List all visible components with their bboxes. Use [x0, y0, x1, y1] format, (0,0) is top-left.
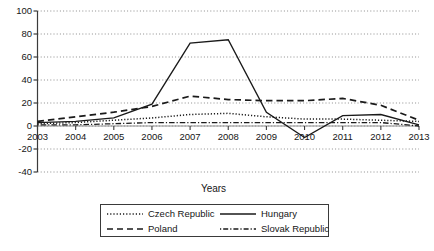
- x-tick-label: 2011: [323, 132, 363, 142]
- legend-swatch-solid-icon: [219, 208, 257, 220]
- y-tick-label: 20: [0, 98, 32, 108]
- x-tick-label: 2009: [246, 132, 286, 142]
- legend-item-slovak-republic: Slovak Republic: [219, 221, 329, 236]
- y-tick-label: -20: [0, 144, 32, 154]
- legend-label: Czech Republic: [148, 208, 215, 219]
- x-tick-label: 2006: [132, 132, 172, 142]
- x-tick-label: 2013: [399, 132, 434, 142]
- legend-item-czech-republic: Czech Republic: [106, 206, 218, 221]
- x-tick-label: 2004: [56, 132, 96, 142]
- legend-swatch-dash-dot-icon: [219, 223, 257, 235]
- legend-swatch-dashed-icon: [106, 223, 144, 235]
- series-line-poland: [38, 96, 420, 121]
- y-tick-label: -40: [0, 167, 32, 177]
- x-tick-label: 2010: [285, 132, 325, 142]
- legend-swatch-dotted-icon: [106, 208, 144, 220]
- y-tick-label: 60: [0, 52, 32, 62]
- x-tick-label: 2007: [170, 132, 210, 142]
- legend-label: Hungary: [261, 208, 297, 219]
- legend-label: Poland: [148, 223, 178, 234]
- x-tick-label: 2008: [208, 132, 248, 142]
- legend-item-poland: Poland: [106, 221, 218, 236]
- y-tick-label: 0: [0, 121, 32, 131]
- legend-item-hungary: Hungary: [219, 206, 329, 221]
- legend-label: Slovak Republic: [261, 223, 329, 234]
- y-tick-label: 40: [0, 75, 32, 85]
- x-tick-label: 2005: [94, 132, 134, 142]
- plot-area: [0, 0, 427, 180]
- x-tick-label: 2012: [361, 132, 401, 142]
- y-tick-label: 100: [0, 6, 32, 16]
- x-tick-label: 2003: [18, 132, 58, 142]
- x-axis-title: Years: [0, 183, 427, 194]
- chart-legend: Czech Republic Hungary Poland Slovak Rep…: [100, 204, 329, 237]
- y-tick-label: 80: [0, 29, 32, 39]
